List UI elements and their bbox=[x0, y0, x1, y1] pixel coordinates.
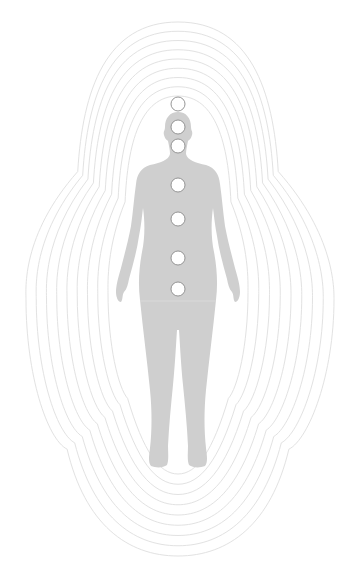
aura-chakra-illustration bbox=[0, 0, 354, 586]
chakra-third-eye-icon bbox=[171, 120, 185, 134]
illustration-canvas bbox=[0, 0, 354, 586]
chakra-root-icon bbox=[171, 282, 185, 296]
chakra-sacral-icon bbox=[171, 251, 185, 265]
chakra-heart-icon bbox=[171, 178, 185, 192]
chakra-solar-plexus-icon bbox=[171, 212, 185, 226]
chakra-throat-icon bbox=[171, 139, 185, 153]
chakra-crown-icon bbox=[171, 97, 185, 111]
